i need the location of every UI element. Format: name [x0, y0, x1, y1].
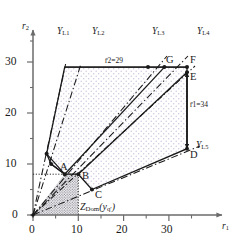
rbar1-label: r̄1=34: [190, 101, 208, 109]
x-axis-label: r1: [222, 222, 229, 232]
ray-label-YL3: YL3: [152, 27, 164, 37]
rbar2-label: r̄2=29: [105, 57, 123, 65]
y-axis-label: r2: [22, 22, 29, 32]
point-label-E: E: [190, 72, 196, 83]
point-label-A: A: [60, 162, 68, 173]
chart-figure: r2 r1 0 10 20 30 0 10 20 30 YL1 YL2 YL3 …: [0, 0, 242, 248]
point-G2: [146, 65, 150, 69]
x-tick-30: 30: [161, 224, 173, 236]
chart-canvas: [0, 0, 242, 248]
point-label-B: B: [82, 171, 89, 182]
point-v1: [45, 152, 49, 156]
x-tick-0: 0: [29, 224, 35, 236]
ray-label-YL2: YL2: [92, 27, 104, 37]
point-A: [63, 172, 67, 176]
point-E: [185, 70, 189, 74]
point-label-G: G: [166, 55, 174, 66]
point-C: [90, 188, 94, 192]
point-label-C: C: [95, 190, 102, 201]
point-origin: [31, 213, 35, 217]
y-tick-20: 20: [5, 107, 17, 119]
x-tick-20: 20: [116, 224, 128, 236]
y-tick-10: 10: [5, 158, 17, 170]
point-B: [76, 172, 80, 176]
zdom-label: ZDom(yq′): [80, 202, 115, 213]
point-F: [185, 65, 189, 69]
point-label-F: F: [190, 55, 196, 66]
point-v2: [49, 162, 53, 166]
x-tick-10: 10: [71, 224, 83, 236]
ray-label-YL1: YL1: [57, 27, 69, 37]
y-tick-30: 30: [5, 56, 17, 68]
point-D: [185, 147, 189, 151]
ray-label-YL4: YL4: [197, 27, 209, 37]
point-label-D: D: [190, 150, 198, 161]
point-G: [162, 65, 166, 69]
y-tick-0: 0: [12, 209, 18, 221]
